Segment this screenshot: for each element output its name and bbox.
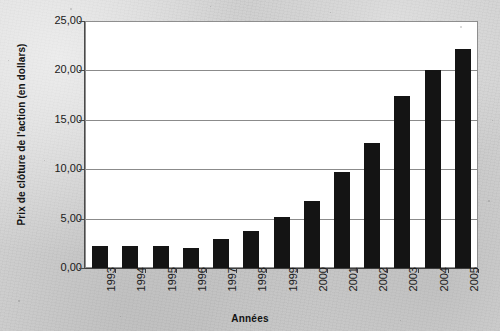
scan-artifact	[120, 316, 121, 317]
scan-artifact	[70, 8, 72, 10]
y-axis-tick-label: 0,00	[36, 262, 82, 273]
y-axis-tick-label: 20,00	[36, 64, 82, 75]
bar	[243, 231, 259, 268]
y-axis-tick	[79, 268, 85, 269]
y-axis-tick-label: 5,00	[36, 213, 82, 224]
y-axis-tick	[79, 169, 85, 170]
scan-artifact	[460, 26, 462, 28]
bar	[274, 217, 290, 268]
bar	[92, 246, 108, 268]
x-axis-tick-label: 1998	[256, 267, 268, 307]
scan-artifact	[18, 300, 20, 302]
scan-artifact	[400, 320, 401, 321]
x-axis-tick-label: 2002	[377, 267, 389, 307]
scanned-chart-page: Prix de clôture de l'action (en dollars)…	[0, 0, 500, 331]
scan-artifact	[492, 120, 493, 121]
y-axis-tick	[79, 219, 85, 220]
y-axis-tick-label: 10,00	[36, 163, 82, 174]
x-axis-tick-label: 1995	[166, 267, 178, 307]
scan-artifact	[250, 325, 251, 326]
bar	[183, 248, 199, 268]
y-axis-line	[84, 21, 85, 269]
x-axis-tick-label: 2001	[347, 267, 359, 307]
bar	[153, 246, 169, 268]
x-axis-tick-label: 2005	[468, 267, 480, 307]
x-axis-tick-label: 2003	[407, 267, 419, 307]
y-axis-tick-label: 25,00	[36, 15, 82, 26]
scan-artifact	[488, 200, 490, 202]
x-axis-tick-label: 1996	[196, 267, 208, 307]
bar	[425, 70, 441, 268]
y-axis-tick-label: 15,00	[36, 114, 82, 125]
y-axis-tick	[79, 120, 85, 121]
x-axis-tick-label: 1997	[226, 267, 238, 307]
gridline	[86, 120, 477, 121]
x-axis-tick-label: 1994	[135, 267, 147, 307]
gridline	[86, 70, 477, 71]
y-axis-title: Prix de clôture de l'action (en dollars)	[16, 10, 27, 260]
bar	[122, 246, 138, 268]
bar	[213, 239, 229, 268]
y-axis-tick	[79, 70, 85, 71]
scan-artifact	[210, 6, 211, 7]
x-axis-title: Années	[0, 313, 500, 324]
gridline	[86, 169, 477, 170]
scan-artifact	[8, 60, 9, 61]
bar	[304, 201, 320, 268]
bar	[455, 49, 471, 268]
x-axis-tick-label: 1993	[105, 267, 117, 307]
y-axis-tick-labels: 0,005,0010,0015,0020,0025,00	[30, 0, 82, 331]
x-axis-tick-label: 1999	[287, 267, 299, 307]
bar	[334, 172, 350, 268]
y-axis-tick	[79, 21, 85, 22]
scan-artifact	[44, 160, 45, 161]
x-axis-tick-label: 2004	[438, 267, 450, 307]
scan-artifact	[330, 12, 331, 13]
bar	[394, 96, 410, 268]
bar	[364, 143, 380, 268]
x-axis-tick-label: 2000	[317, 267, 329, 307]
